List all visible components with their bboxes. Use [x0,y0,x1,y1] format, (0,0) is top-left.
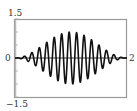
x-tick-label-right: 2 [129,54,135,63]
y-tick-label-bottom: −1.5 [6,100,28,109]
y-tick-label-zero: 0 [5,54,11,63]
y-tick-label-top: 1.5 [8,9,22,18]
